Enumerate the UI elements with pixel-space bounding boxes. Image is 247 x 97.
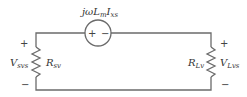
right-voltage-label: VLvs (220, 57, 240, 70)
circuit-diagram: + − jωLmIxs + Vsvs Rsv − + RLv VLvs − (0, 0, 247, 97)
top-wire-left (36, 33, 85, 47)
bottom-wire (36, 77, 211, 90)
right-plus-sign: + (220, 38, 228, 49)
left-plus-sign: + (20, 38, 28, 49)
source-minus-sign: − (101, 28, 109, 39)
source-plus-sign: + (88, 28, 96, 39)
top-wire-right (111, 33, 211, 47)
left-voltage-label: Vsvs (10, 57, 29, 70)
right-minus-sign: − (221, 79, 229, 90)
left-resistor-icon (32, 47, 40, 77)
left-minus-sign: − (21, 79, 29, 90)
right-resistor-label: RLv (187, 57, 204, 70)
source-label: jωLmIxs (80, 6, 118, 19)
left-resistor-label: Rsv (45, 57, 61, 70)
right-resistor-icon (207, 47, 215, 77)
